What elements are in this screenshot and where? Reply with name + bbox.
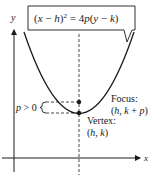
focus-title: Focus: bbox=[111, 93, 138, 104]
p-brace bbox=[40, 102, 46, 113]
vertex-coords: (h, k) bbox=[87, 127, 108, 139]
vertex-point bbox=[77, 111, 81, 115]
focus-coords: (h, k + p) bbox=[111, 105, 148, 117]
vertex-title: Vertex: bbox=[87, 115, 116, 126]
y-axis-label: y bbox=[10, 12, 16, 23]
p-positive-label: p > 0 bbox=[15, 102, 37, 113]
focus-point bbox=[77, 100, 81, 104]
equation-text: (x − h)2 = 4p(y − k) bbox=[34, 12, 119, 25]
x-axis-label: x bbox=[143, 153, 148, 163]
parabola-diagram: y x (x − h)2 = 4p(y − k) p > 0 Focus: (h… bbox=[0, 0, 158, 175]
